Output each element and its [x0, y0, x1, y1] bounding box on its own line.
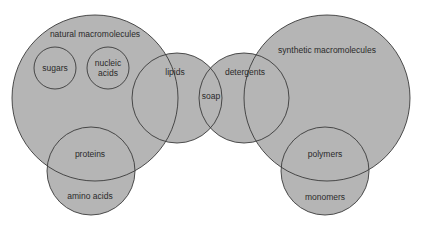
acids-label: acids	[98, 68, 118, 78]
sugars-label: sugars	[42, 63, 68, 73]
proteins-label: proteins	[75, 149, 105, 159]
monomers-label: monomers	[305, 192, 345, 202]
natural-macromolecules-label: natural macromolecules	[50, 29, 140, 39]
synthetic-macromolecules-label: synthetic macromolecules	[278, 45, 376, 55]
soap-label: soap	[202, 91, 221, 101]
lipids-label: lipids	[165, 67, 184, 77]
polymers-label: polymers	[308, 149, 342, 159]
venn-diagram: natural macromolecules sugars nucleic ac…	[0, 0, 423, 230]
nucleic-label: nucleic	[95, 58, 122, 68]
detergents-label: detergents	[225, 67, 265, 77]
amino-acids-label: amino acids	[67, 191, 112, 201]
